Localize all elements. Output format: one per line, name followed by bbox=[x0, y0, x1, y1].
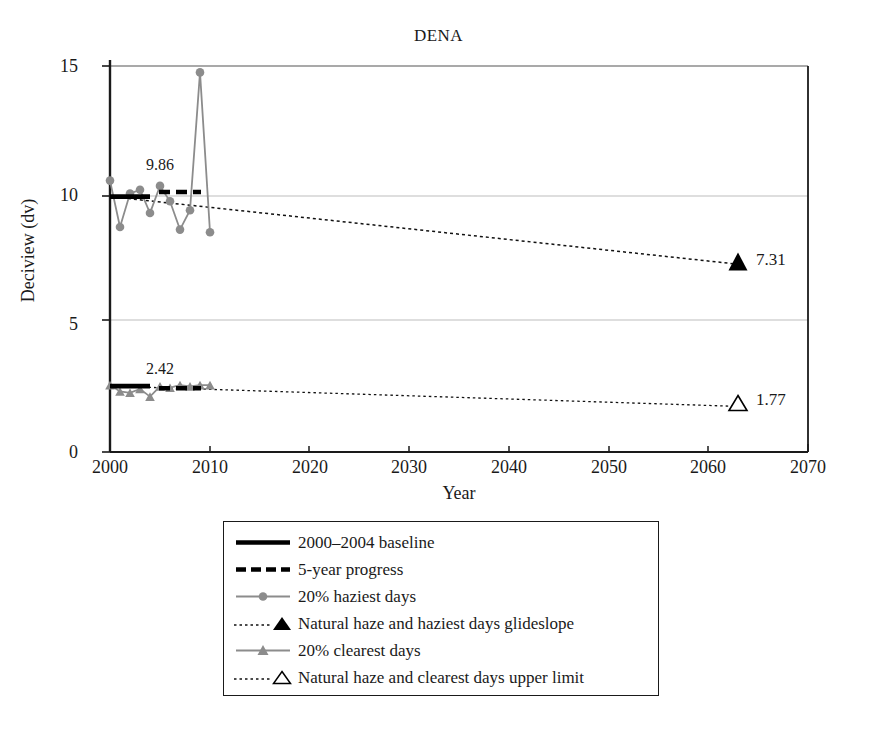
haziest-days-markers bbox=[106, 68, 215, 236]
y-tick-10: 10 bbox=[32, 185, 78, 206]
chart-legend: 2000–2004 baseline 5-year progress 20% h… bbox=[223, 521, 659, 696]
legend-key-gray-triangle-line-icon bbox=[224, 637, 298, 664]
legend-item-baseline: 2000–2004 baseline bbox=[224, 529, 660, 556]
x-axis-ticks bbox=[110, 444, 808, 452]
x-tick-2020: 2020 bbox=[275, 457, 345, 478]
legend-item-haziest-days: 20% haziest days bbox=[224, 583, 660, 610]
legend-item-progress: 5-year progress bbox=[224, 556, 660, 583]
legend-key-solid-line-icon bbox=[224, 529, 298, 556]
x-tick-2060: 2060 bbox=[673, 457, 743, 478]
y-axis-ticks bbox=[102, 66, 110, 452]
chart-title: DENA bbox=[0, 26, 877, 46]
haziest-days-series bbox=[110, 72, 210, 232]
x-tick-2050: 2050 bbox=[574, 457, 644, 478]
x-tick-2000: 2000 bbox=[75, 457, 145, 478]
legend-key-dotted-filled-triangle-icon bbox=[224, 610, 298, 637]
x-tick-2040: 2040 bbox=[474, 457, 544, 478]
y-tick-0: 0 bbox=[32, 442, 78, 463]
x-tick-2070: 2070 bbox=[773, 457, 843, 478]
legend-item-clearest-days: 20% clearest days bbox=[224, 637, 660, 664]
clearest-days-series bbox=[110, 385, 210, 397]
chart-figure: DENA Deciview (dv) Year 15 10 5 0 2000 2… bbox=[0, 0, 877, 732]
haziest-glideslope-endpoint-marker bbox=[729, 253, 748, 271]
y-tick-15: 15 bbox=[32, 56, 78, 77]
clearest-progress-value-label: 2.42 bbox=[146, 360, 174, 378]
haziest-glideslope-line bbox=[110, 197, 738, 265]
x-tick-2030: 2030 bbox=[374, 457, 444, 478]
clearest-upperlimit-endpoint-marker bbox=[729, 396, 747, 411]
y-tick-5: 5 bbox=[32, 314, 78, 335]
legend-key-dashed-line-icon bbox=[224, 556, 298, 583]
legend-item-clearest-upper-limit: Natural haze and clearest days upper lim… bbox=[224, 664, 660, 691]
gridlines bbox=[110, 66, 808, 320]
x-tick-2010: 2010 bbox=[175, 457, 245, 478]
legend-label-progress: 5-year progress bbox=[298, 561, 403, 578]
clearest-upperlimit-endpoint-label: 1.77 bbox=[756, 390, 786, 410]
legend-label-clearest-upper-limit: Natural haze and clearest days upper lim… bbox=[298, 669, 584, 686]
legend-label-clearest-days: 20% clearest days bbox=[298, 642, 421, 659]
haziest-progress-value-label: 9.86 bbox=[146, 156, 174, 174]
legend-key-dotted-open-triangle-icon bbox=[224, 664, 298, 691]
legend-key-gray-circle-line-icon bbox=[224, 583, 298, 610]
legend-label-haziest-days: 20% haziest days bbox=[298, 588, 416, 605]
legend-item-haziest-glideslope: Natural haze and haziest days glideslope bbox=[224, 610, 660, 637]
legend-label-baseline: 2000–2004 baseline bbox=[298, 534, 434, 551]
axis-lines bbox=[110, 60, 808, 452]
haziest-glideslope-endpoint-label: 7.31 bbox=[756, 250, 786, 270]
clearest-upperlimit-line bbox=[110, 386, 738, 406]
clearest-days-markers bbox=[105, 381, 215, 401]
x-axis-label: Year bbox=[110, 483, 808, 504]
legend-label-haziest-glideslope: Natural haze and haziest days glideslope bbox=[298, 615, 574, 632]
